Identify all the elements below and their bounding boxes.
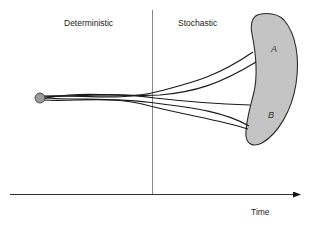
trajectories (42, 52, 256, 129)
outcome-a-label: A (271, 45, 277, 54)
deterministic-label: Deterministic (64, 19, 113, 28)
diagram-canvas (0, 0, 313, 226)
outcome-b-label: B (268, 111, 274, 120)
trajectory-b-middle (42, 98, 249, 126)
time-axis-label: Time (251, 208, 270, 217)
outcome-region (246, 14, 298, 145)
stochastic-label: Stochastic (178, 19, 217, 28)
start-point (35, 93, 45, 103)
trajectory-a-upper (42, 52, 253, 97)
trajectory-b-lower (42, 100, 248, 129)
